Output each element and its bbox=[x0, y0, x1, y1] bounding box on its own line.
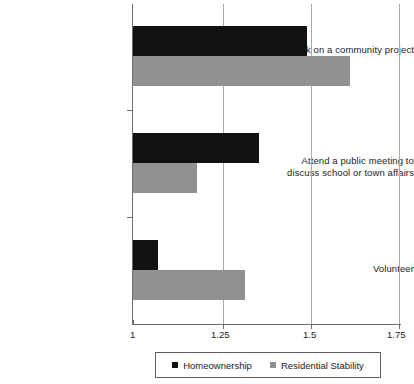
legend-swatch-icon-residential-stability bbox=[270, 362, 276, 368]
chart-legend: Homeownership Residential Stability bbox=[155, 352, 381, 378]
x-axis-line bbox=[133, 324, 401, 325]
bar-chart-figure: Work on a community project Attend a pub… bbox=[0, 0, 414, 384]
x-axis-label-1.5: 1.5 bbox=[303, 329, 316, 341]
bar-homeownership-work-on-a-community-project bbox=[133, 26, 307, 56]
plot-area bbox=[133, 4, 400, 324]
bar-homeownership-attend-a-public-meeting bbox=[133, 133, 259, 163]
bar-homeownership-volunteer bbox=[133, 240, 158, 270]
legend-item-residential-stability: Residential Stability bbox=[270, 360, 364, 371]
y-axis-tick-separator-top bbox=[127, 110, 133, 111]
x-axis-label-1: 1 bbox=[130, 329, 135, 341]
gridline-1.5 bbox=[311, 4, 312, 324]
legend-label-residential-stability: Residential Stability bbox=[281, 360, 364, 371]
x-axis-label-1.75: 1.75 bbox=[387, 329, 406, 341]
bar-residential-stability-attend-a-public-meeting bbox=[133, 163, 197, 193]
legend-swatch-icon-homeownership bbox=[172, 362, 178, 368]
legend-item-homeownership: Homeownership bbox=[172, 360, 252, 371]
bar-residential-stability-volunteer bbox=[133, 270, 245, 300]
y-axis-tick-separator-bottom bbox=[127, 217, 133, 218]
gridline-1.75 bbox=[399, 4, 400, 324]
x-axis-tick-1 bbox=[133, 320, 134, 325]
x-axis-label-1.25: 1.25 bbox=[211, 329, 230, 341]
bar-residential-stability-work-on-a-community-project bbox=[133, 56, 350, 86]
legend-label-homeownership: Homeownership bbox=[183, 360, 252, 371]
y-axis-line bbox=[132, 4, 133, 325]
